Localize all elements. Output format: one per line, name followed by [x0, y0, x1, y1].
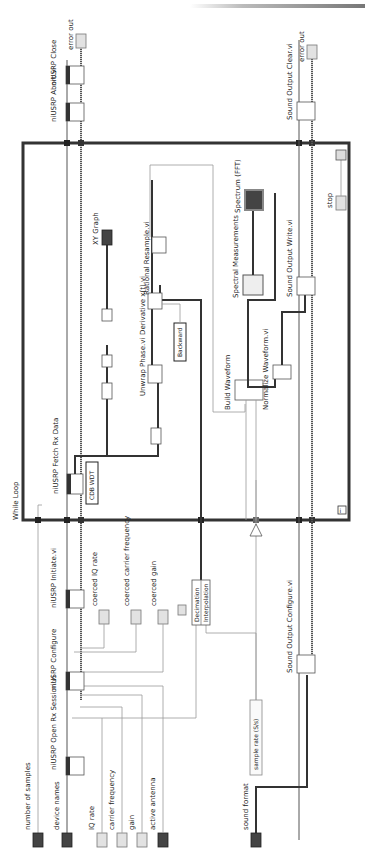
label-configure: niUSRP Configure	[50, 629, 58, 690]
svg-text:Backward: Backward	[176, 327, 183, 357]
svg-text:error out: error out	[67, 19, 75, 50]
tunnel-error	[78, 517, 84, 523]
svg-text:Sound Output Clear.vi: Sound Output Clear.vi	[286, 43, 294, 120]
svg-text:Decimation: Decimation	[193, 588, 200, 622]
sample-rate-constant[interactable]: sample rate (S/s)	[250, 700, 262, 775]
svg-text:stop: stop	[326, 192, 334, 208]
svg-text:Spectral Measurements: Spectral Measurements	[232, 215, 240, 298]
control-sound-format[interactable]: sound format	[242, 783, 261, 847]
fetch-type-constant[interactable]: CDB WDT	[86, 462, 98, 504]
svg-text:niUSRP Close: niUSRP Close	[50, 40, 58, 86]
indicator-coerced-iq-rate[interactable]: coerced IQ rate	[91, 552, 109, 624]
svg-text:coerced IQ rate: coerced IQ rate	[91, 552, 99, 606]
svg-text:XY Graph: XY Graph	[92, 212, 100, 245]
sound-output-configure[interactable]: Sound Output Configure.vi	[286, 580, 315, 673]
svg-text:error out: error out	[298, 31, 306, 62]
control-gain[interactable]: gain	[128, 815, 147, 847]
xy-graph-indicator[interactable]: XY Graph	[92, 212, 112, 245]
svg-text:niUSRP Fetch Rx Data: niUSRP Fetch Rx Data	[52, 418, 60, 494]
rational-resample-vi[interactable]: Rational Resample.vi	[143, 221, 166, 295]
svg-text:coerced gain: coerced gain	[150, 561, 158, 606]
unbundle-node	[151, 428, 161, 444]
label-iq-rate: IQ rate	[88, 806, 96, 830]
array-node	[102, 355, 112, 367]
block-diagram: While Loop i number of samples device na…	[0, 0, 365, 855]
error-out-sound[interactable]: error out	[298, 31, 317, 62]
svg-text:Sound Output Write.vi: Sound Output Write.vi	[286, 219, 294, 297]
svg-text:Interpolation: Interpolation	[202, 583, 210, 622]
svg-text:Sound Output Configure.vi: Sound Output Configure.vi	[286, 580, 294, 673]
sound-output-write[interactable]: Sound Output Write.vi	[286, 219, 315, 297]
label-gain: gain	[128, 815, 136, 830]
svg-text:sample rate (S/s): sample rate (S/s)	[252, 719, 260, 770]
label-active-antenna: active antenna	[149, 778, 157, 830]
tunnel-samples	[35, 517, 41, 523]
normalize-waveform-vi[interactable]: Normalize Waveform.vi	[262, 329, 291, 410]
control-number-of-samples[interactable]: number of samples	[24, 762, 43, 847]
error-out-usrp[interactable]: error out	[67, 19, 86, 50]
resample-ratio-cluster[interactable]: Decimation Interpolation	[192, 580, 210, 625]
indicator-coerced-carrier-frequency[interactable]: coerced carrier frequency	[123, 516, 141, 624]
tunnel-session	[64, 517, 70, 523]
svg-text:Spectrum (FFT): Spectrum (FFT)	[234, 159, 242, 213]
control-active-antenna[interactable]: active antenna	[149, 778, 168, 847]
control-iq-rate[interactable]: IQ rate	[88, 806, 107, 847]
loop-condition-icon	[336, 150, 346, 160]
complex-to-polar-node	[102, 383, 112, 399]
control-carrier-frequency[interactable]: carrier frequency	[108, 770, 127, 847]
stop-button-terminal[interactable]: stop	[326, 192, 346, 210]
label-device-names: device names	[53, 781, 61, 830]
spectral-measurements[interactable]: Spectral Measurements	[232, 215, 263, 298]
bundle-node	[102, 309, 112, 321]
svg-text:Build Waveform: Build Waveform	[224, 354, 232, 410]
svg-text:niUSRP Initiate.vi: niUSRP Initiate.vi	[50, 548, 58, 608]
derivative-method-constant[interactable]: Backward	[174, 323, 186, 361]
build-waveform[interactable]: Build Waveform	[224, 354, 263, 410]
svg-text:coerced carrier frequency: coerced carrier frequency	[123, 516, 131, 606]
svg-text:Unwrap Phase.vi: Unwrap Phase.vi	[139, 338, 147, 396]
indicator-coerced-gain[interactable]: coerced gain	[150, 561, 168, 624]
wire-number-samples	[38, 505, 42, 840]
label-sound-format: sound format	[242, 783, 250, 830]
svg-text:Normalize Waveform.vi: Normalize Waveform.vi	[262, 329, 270, 410]
multiply-icon	[250, 524, 262, 536]
spectrum-fft-indicator[interactable]: Spectrum (FFT)	[234, 159, 263, 213]
label-number-of-samples: number of samples	[24, 762, 32, 830]
resample-const-terminal	[178, 605, 186, 615]
svg-text:CDB WDT: CDB WDT	[88, 471, 95, 500]
label-carrier-frequency: carrier frequency	[108, 770, 116, 830]
while-loop-label: While Loop	[12, 481, 20, 520]
control-device-names[interactable]: device names	[53, 781, 72, 847]
